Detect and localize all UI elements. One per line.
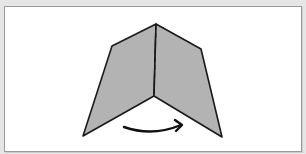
fold-diagram [0, 0, 306, 154]
left-panel [83, 24, 156, 136]
fold-arrow [124, 125, 181, 132]
right-panel [154, 24, 222, 137]
